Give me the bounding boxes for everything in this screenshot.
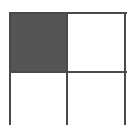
cell-top-left-filled xyxy=(10,13,68,73)
left-vertical-line xyxy=(9,12,11,125)
two-by-two-grid xyxy=(0,0,132,125)
cell-top-right xyxy=(68,13,126,73)
right-vertical-line xyxy=(124,12,126,125)
middle-vertical-line xyxy=(66,12,68,125)
middle-horizontal-line xyxy=(10,71,127,73)
cell-bottom-right xyxy=(68,73,126,125)
cell-bottom-left xyxy=(10,73,68,125)
top-border-line xyxy=(10,12,127,14)
